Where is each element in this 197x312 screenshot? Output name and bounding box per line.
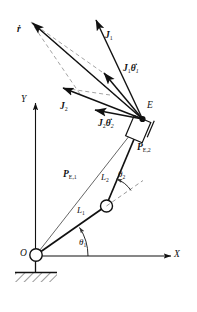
link1-length-label: L1 [77, 206, 85, 216]
y-axis-label: Y [21, 95, 26, 105]
x-axis-label: X [174, 250, 180, 260]
pe1-vector-label: PE,1 [63, 170, 77, 181]
j1-thetadot1-vector-label: J1θ̇1 [123, 64, 139, 75]
theta2-arc [117, 179, 132, 191]
figure-root: Y X O E ṙ J1 J1θ̇1 J2 J2θ̇2 PE,1 PE,2 L1… [0, 0, 197, 312]
theta1-angle-label: θ1 [79, 238, 86, 248]
ground-support [15, 261, 57, 282]
j1-vector-label: J1 [105, 31, 113, 42]
link-1 [36, 206, 106, 255]
origin-label: O [20, 249, 27, 259]
pe2-vector-label: PE,2 [137, 143, 151, 154]
manipulator-links [36, 119, 143, 255]
ground-hatching [15, 273, 57, 282]
kinematics-diagram-canvas [0, 0, 197, 312]
j2-vector-label: J2 [60, 102, 68, 113]
base-joint [30, 249, 42, 261]
rdot-vector-label: ṙ [17, 25, 21, 35]
end-effector-label: E [147, 101, 153, 111]
theta2-angle-label: θ2 [118, 170, 125, 180]
figure-caption [0, 300, 197, 312]
position-vector-pe1 [36, 119, 143, 255]
link2-length-label: L2 [101, 173, 109, 183]
dashed-construction-b [31, 22, 102, 72]
j2-thetadot2-vector-label: J2θ̇2 [98, 119, 114, 130]
